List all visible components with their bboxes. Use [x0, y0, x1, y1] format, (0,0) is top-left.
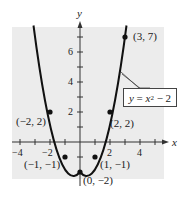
- point-label: (−2, 2): [16, 116, 46, 127]
- y-axis-label: y: [77, 8, 82, 19]
- point-0-m2: [77, 169, 82, 174]
- x-axis-arrow-icon: [162, 140, 169, 145]
- point-label: (2, 2): [110, 118, 134, 129]
- x-axis-label: x: [172, 137, 177, 148]
- point-2-2: [107, 109, 112, 114]
- point-3-7: [122, 34, 127, 39]
- point-m1-m1: [62, 154, 67, 159]
- point-label: (0, −2): [83, 175, 113, 186]
- equation-callout: y = x2 − 2: [123, 88, 177, 107]
- point-1-m1: [92, 154, 97, 159]
- y-tick-label: 2: [68, 107, 73, 117]
- eq-equals: =: [134, 92, 146, 104]
- y-tick-label: 6: [68, 47, 73, 57]
- eq-rest: − 2: [154, 92, 171, 104]
- x-tick-label: −4: [12, 148, 23, 158]
- x-tick-label: 4: [137, 148, 142, 158]
- y-tick-label: 4: [68, 77, 73, 87]
- point-m2-2: [47, 109, 52, 114]
- y-axis-arrow-icon: [78, 21, 83, 28]
- point-label: (3, 7): [133, 31, 157, 42]
- x-tick-label: 2: [107, 148, 112, 158]
- point-label: (−1, −1): [24, 159, 60, 170]
- x-tick-label: −2: [42, 148, 53, 158]
- point-label: (1, −1): [100, 159, 130, 170]
